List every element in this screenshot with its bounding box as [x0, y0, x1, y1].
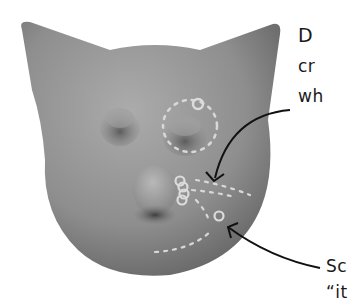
- mouth-shadow: [133, 205, 177, 225]
- bottom-callout-line-2: “it: [326, 282, 348, 302]
- cat-head-mesh: [21, 22, 280, 276]
- bottom-callout-line-1: Sc: [326, 256, 347, 276]
- top-callout-line-2: cr: [298, 56, 315, 76]
- top-callout-line-1: D: [298, 24, 313, 46]
- top-callout-line-3: wh: [298, 86, 324, 106]
